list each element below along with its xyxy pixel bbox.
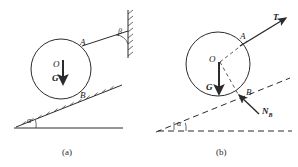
angle-beta-arc-a [116,35,128,44]
caption-panel-b: (b) [216,148,227,157]
radius-ob-dashed-b [220,62,238,94]
label-normal-nb-b: NB [262,107,273,118]
normal-subscript: B [269,112,273,118]
label-point-o-a: O [53,60,60,69]
label-weight-g-b: G [206,83,213,92]
label-point-a-a: A [80,38,86,47]
tension-vector-b [240,18,286,46]
label-angle-alpha-b: α [177,120,181,128]
angle-alpha-arc-b [185,123,186,131]
label-point-o-b: O [209,55,216,64]
label-tension-t-b: T [273,13,279,22]
normal-vector-b [239,95,259,114]
wall-hatching-a [128,10,133,56]
angle-alpha-arc-a [36,120,37,128]
figure-canvas [0,0,298,167]
label-point-a-b: A [240,32,246,41]
incline-line-a [16,85,122,127]
label-angle-beta-a: β [118,28,122,36]
panel-a [14,10,133,128]
label-angle-alpha-a: α [27,117,31,125]
label-point-b-b: B [246,88,252,97]
label-weight-g-a: G [52,74,59,83]
caption-panel-a: (a) [62,148,72,157]
physics-figure: O A B G α β (a) O A B G T NB α (b) [0,0,298,167]
label-point-b-a: B [80,91,86,100]
